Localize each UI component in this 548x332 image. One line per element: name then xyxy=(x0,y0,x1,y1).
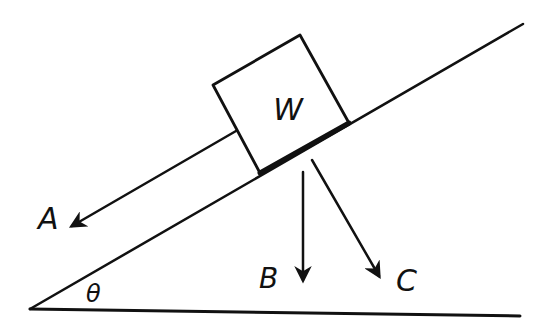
arrow-b-label: B xyxy=(259,262,278,295)
arrow-a xyxy=(72,131,236,226)
ground-line xyxy=(30,309,520,316)
arrow-c xyxy=(312,160,379,276)
incline-diagram: W A B C θ xyxy=(0,0,548,332)
arrow-a-label: A xyxy=(36,201,59,236)
arrow-c-label: C xyxy=(396,263,417,298)
angle-label: θ xyxy=(86,280,101,308)
block-label: W xyxy=(273,92,304,127)
